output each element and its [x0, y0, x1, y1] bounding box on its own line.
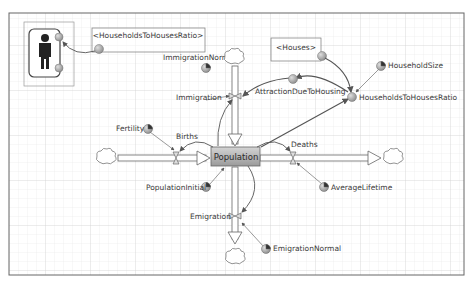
immigration-label: Immigration [176, 93, 222, 102]
births-label: Births [176, 132, 198, 141]
emigration-label: Emigration [190, 212, 231, 221]
agent-port-top[interactable] [55, 33, 63, 41]
population-stock[interactable]: Population [211, 147, 260, 166]
fertility-label: Fertility [116, 124, 145, 133]
diagram-canvas[interactable]: <HouseholdsToHousesRatio> ImmigrationNor… [0, 0, 472, 283]
attraction-label: AttractionDueToHousing [255, 87, 346, 96]
agent-port-bottom[interactable] [55, 64, 63, 72]
attraction-auxiliary[interactable] [289, 75, 298, 84]
houses-reference-label: <Houses> [276, 43, 316, 52]
ratio-reference[interactable]: <HouseholdsToHousesRatio> [92, 28, 205, 54]
householdsize-label: HouseholdSize [388, 61, 443, 70]
immigrationnormal-parameter[interactable] [202, 64, 211, 73]
houses-reference[interactable]: <Houses> [271, 38, 327, 61]
ratio-reference-label: <HouseholdsToHousesRatio> [93, 31, 204, 40]
population-label: Population [214, 152, 259, 162]
averagelifetime-parameter[interactable] [320, 183, 329, 192]
averagelifetime-label: AverageLifetime [331, 183, 393, 192]
emigrationnormal-parameter[interactable] [262, 245, 271, 254]
ratio-label: HouseholdsToHousesRatio [359, 93, 458, 102]
populationinitial-label: PopulationInitial [146, 183, 206, 192]
fertility-parameter[interactable] [144, 125, 153, 134]
householdsize-parameter[interactable] [377, 62, 386, 71]
deaths-label: Deaths [291, 140, 318, 149]
ratio-auxiliary[interactable] [348, 93, 357, 102]
emigrationnormal-label: EmigrationNormal [273, 244, 341, 253]
